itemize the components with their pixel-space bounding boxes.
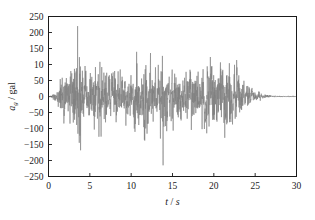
y-tick-label: −100: [24, 124, 44, 134]
y-tick-label: 10: [34, 60, 44, 70]
y-tick-label: −250: [24, 172, 44, 182]
x-tick-label: 0: [46, 181, 51, 191]
y-tick-label: −150: [24, 140, 44, 150]
y-tick-label: 0: [39, 92, 44, 102]
y-tick-label: 150: [29, 44, 44, 54]
y-tick-label: 200: [29, 28, 44, 38]
x-tick-label: 30: [292, 181, 302, 191]
chart-canvas: 25020015010500−50−100−150−200−250 051015…: [0, 0, 315, 220]
x-tick-label: 20: [209, 181, 219, 191]
y-tick-label: −50: [29, 108, 44, 118]
y-tick-label: 50: [34, 76, 44, 86]
x-tick-label: 15: [168, 181, 178, 191]
y-tick-label: 250: [29, 12, 44, 22]
x-axis-label: t / s: [165, 196, 180, 207]
x-tick-label: 5: [87, 181, 92, 191]
acceleration-time-history-figure: 25020015010500−50−100−150−200−250 051015…: [0, 0, 315, 220]
y-tick-label: −200: [24, 156, 44, 166]
x-tick-label: 10: [126, 181, 136, 191]
x-tick-label: 25: [250, 181, 260, 191]
